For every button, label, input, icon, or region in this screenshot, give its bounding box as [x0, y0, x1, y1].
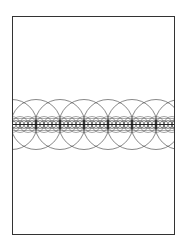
- circles-figure: [0, 0, 194, 244]
- circle-band: [0, 100, 194, 150]
